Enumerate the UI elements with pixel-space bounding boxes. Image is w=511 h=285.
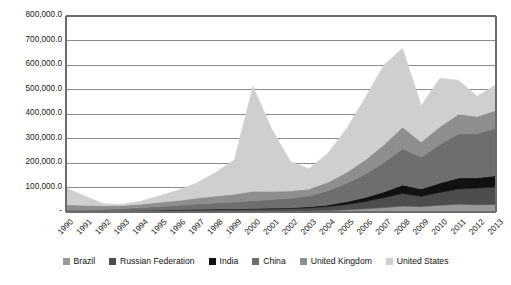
y-tick-label: 300,000.0 xyxy=(26,133,62,142)
legend-item-india[interactable]: India xyxy=(209,256,239,266)
y-tick-label: - xyxy=(59,206,62,215)
legend-swatch-icon xyxy=(209,258,216,265)
y-tick-label: 400,000.0 xyxy=(26,108,62,117)
legend-swatch-icon xyxy=(386,258,393,265)
y-tick-label: 800,000.0 xyxy=(26,10,62,19)
legend-label: Brazil xyxy=(74,256,96,266)
y-tick-label: 500,000.0 xyxy=(26,84,62,93)
legend-item-united-kingdom[interactable]: United Kingdom xyxy=(300,256,372,266)
legend-swatch-icon xyxy=(300,258,307,265)
legend-label: United Kingdom xyxy=(311,256,372,266)
legend-label: India xyxy=(220,256,239,266)
legend-item-united-states[interactable]: United States xyxy=(386,256,449,266)
legend-swatch-icon xyxy=(63,258,70,265)
legend-swatch-icon xyxy=(109,258,116,265)
y-tick-label: 100,000.0 xyxy=(26,182,62,191)
legend-item-china[interactable]: China xyxy=(252,256,285,266)
stacked-area-chart: -100,000.0200,000.0300,000.0400,000.0500… xyxy=(0,0,511,285)
y-tick-label: 200,000.0 xyxy=(26,157,62,166)
y-tick-label: 600,000.0 xyxy=(26,59,62,68)
chart-legend: BrazilRussian FederationIndiaChinaUnited… xyxy=(0,256,511,266)
legend-swatch-icon xyxy=(252,258,259,265)
legend-item-brazil[interactable]: Brazil xyxy=(63,256,96,266)
y-tick-label: 700,000.0 xyxy=(26,35,62,44)
legend-label: United States xyxy=(397,256,449,266)
legend-label: Russian Federation xyxy=(120,256,195,266)
legend-label: China xyxy=(263,256,285,266)
legend-item-russian-federation[interactable]: Russian Federation xyxy=(109,256,195,266)
